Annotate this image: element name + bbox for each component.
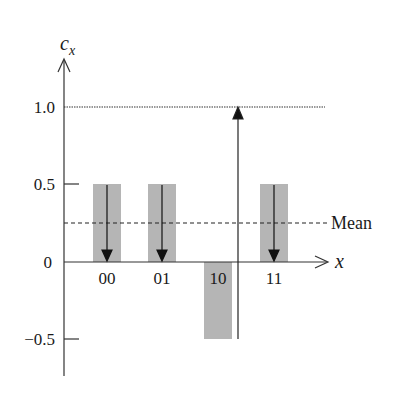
xtick-label-10: 10 xyxy=(210,269,227,288)
x-axis-label: x xyxy=(334,250,344,272)
ytick-label-0: 0 xyxy=(44,253,53,272)
xtick-label-00: 00 xyxy=(99,269,116,288)
chart: 1.0 0.5 0 −0.5 00 01 10 11 cx x Mean xyxy=(0,0,398,393)
ytick-label-neg-0-5: −0.5 xyxy=(24,330,55,349)
xtick-label-01: 01 xyxy=(154,269,171,288)
y-axis-label: cx xyxy=(60,32,76,58)
xtick-label-11: 11 xyxy=(266,269,282,288)
ytick-label-1-0: 1.0 xyxy=(34,98,55,117)
ytick-label-0-5: 0.5 xyxy=(34,175,55,194)
mean-label: Mean xyxy=(331,213,372,233)
arrow-up-icon xyxy=(233,107,243,119)
